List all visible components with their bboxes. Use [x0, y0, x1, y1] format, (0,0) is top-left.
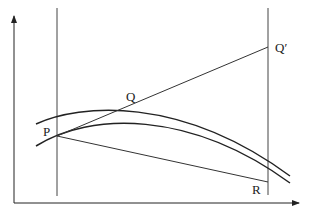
label-p: P	[43, 124, 50, 139]
label-r: R	[252, 182, 261, 197]
label-q: Q	[126, 89, 136, 104]
upper-curve	[36, 110, 290, 176]
label-qprime: Q′	[275, 40, 287, 55]
segment-p-qprime	[57, 47, 268, 136]
diagram: P Q Q′ R	[0, 0, 309, 211]
lower-curve	[36, 123, 290, 183]
